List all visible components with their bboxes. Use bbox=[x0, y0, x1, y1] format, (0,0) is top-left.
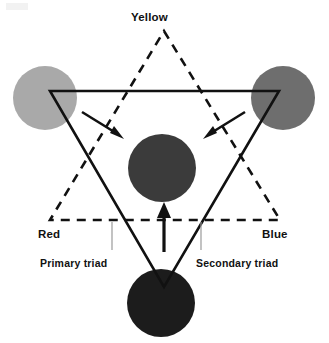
label-secondary-triad: Secondary triad bbox=[196, 258, 278, 269]
label-primary-triad: Primary triad bbox=[40, 258, 107, 269]
color-triad-diagram: Yellow Red Blue Primary triad Secondary … bbox=[0, 0, 329, 343]
center-circle-swatch bbox=[128, 134, 196, 202]
label-red: Red bbox=[38, 229, 60, 241]
diagram-canvas bbox=[0, 0, 329, 343]
arrow-up-icon bbox=[157, 202, 171, 252]
arrow-right-icon bbox=[203, 112, 245, 139]
bottom-circle-swatch bbox=[127, 269, 195, 337]
arrow-left-icon bbox=[82, 112, 124, 139]
label-blue: Blue bbox=[262, 229, 288, 241]
label-yellow: Yellow bbox=[131, 12, 168, 24]
